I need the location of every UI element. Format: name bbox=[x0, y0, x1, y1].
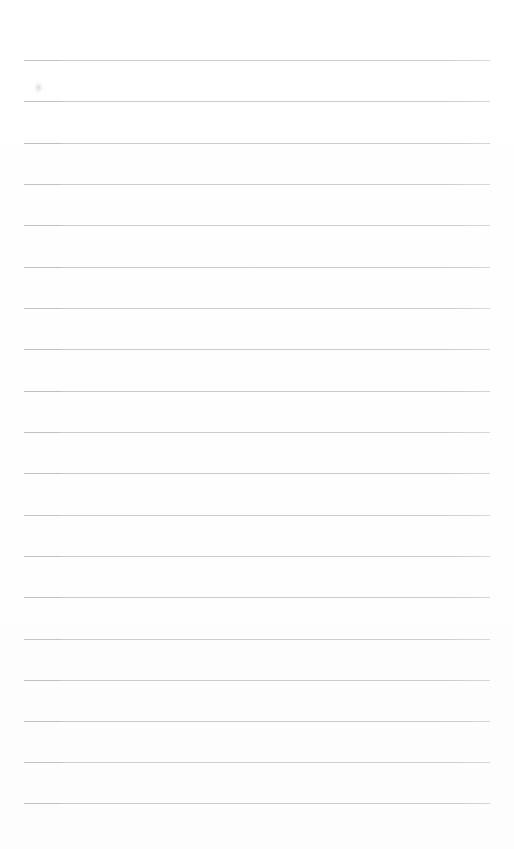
rule-line bbox=[24, 515, 490, 516]
rule-line bbox=[24, 349, 490, 350]
ruled-lines-layer bbox=[0, 0, 514, 849]
rule-line bbox=[24, 721, 490, 722]
rule-line bbox=[24, 308, 490, 309]
rule-line bbox=[24, 556, 490, 557]
rule-line bbox=[24, 267, 490, 268]
rule-line bbox=[24, 473, 490, 474]
rule-line bbox=[24, 639, 490, 640]
lined-paper-page bbox=[0, 0, 514, 849]
rule-line bbox=[24, 225, 490, 226]
rule-line bbox=[24, 597, 490, 598]
rule-line bbox=[24, 101, 490, 102]
rule-line bbox=[24, 184, 490, 185]
rule-line bbox=[24, 432, 490, 433]
rule-line bbox=[24, 143, 490, 144]
rule-line bbox=[24, 60, 490, 61]
rule-line bbox=[24, 762, 490, 763]
rule-line bbox=[24, 391, 490, 392]
rule-line bbox=[24, 803, 490, 804]
rule-line bbox=[24, 680, 490, 681]
